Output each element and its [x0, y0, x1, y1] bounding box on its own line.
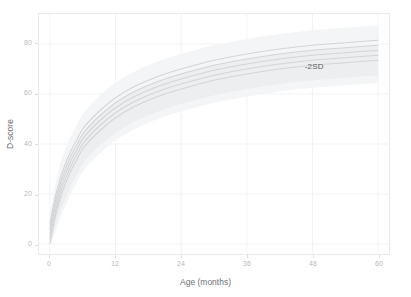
x-tick-mark-24 [181, 255, 182, 258]
plot-panel [38, 13, 390, 255]
x-tick-mark-0 [49, 255, 50, 258]
x-tick-label-24: 24 [166, 260, 196, 267]
dscore-growth-chart: D-score 0 20 40 60 80 0 12 24 36 48 60 -… [0, 0, 411, 297]
y-tick-label-40: 40 [8, 140, 32, 147]
x-tick-mark-48 [313, 255, 314, 258]
x-axis-title: Age (months) [0, 277, 411, 287]
x-tick-mark-60 [379, 255, 380, 258]
y-tick-label-0: 0 [8, 240, 32, 247]
x-tick-label-60: 60 [364, 260, 394, 267]
y-tick-label-20: 20 [8, 190, 32, 197]
x-tick-label-36: 36 [232, 260, 262, 267]
y-tick-label-80: 80 [8, 39, 32, 46]
plot-canvas [39, 14, 389, 254]
x-tick-label-48: 48 [298, 260, 328, 267]
x-tick-mark-12 [115, 255, 116, 258]
annotation-minus-2sd: -2SD [305, 62, 324, 71]
x-tick-label-12: 12 [100, 260, 130, 267]
x-tick-mark-36 [247, 255, 248, 258]
x-tick-label-0: 0 [34, 260, 64, 267]
y-tick-label-60: 60 [8, 89, 32, 96]
